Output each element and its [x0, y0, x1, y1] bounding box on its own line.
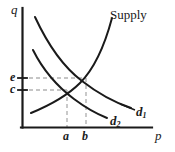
supply-demand-figure: q p e c a b Supply d1 d2	[0, 0, 175, 152]
x-axis-label: p	[155, 129, 162, 142]
demand-curve-d2-label: d2	[110, 114, 121, 127]
demand-curve-d1	[35, 17, 131, 108]
d2-label-subscript: 2	[117, 120, 121, 129]
d1-leader-line	[120, 104, 135, 110]
d2-label-base: d	[110, 113, 117, 128]
y-tick-label-c: c	[10, 83, 15, 95]
x-tick-label-b: b	[82, 130, 88, 142]
y-axis-label: q	[11, 3, 18, 16]
d1-label-base: d	[136, 104, 143, 119]
supply-curve-label: Supply	[110, 8, 147, 21]
d1-label-subscript: 1	[143, 111, 147, 120]
demand-curve-d1-label: d1	[136, 105, 147, 118]
x-tick-label-a: a	[63, 130, 69, 142]
